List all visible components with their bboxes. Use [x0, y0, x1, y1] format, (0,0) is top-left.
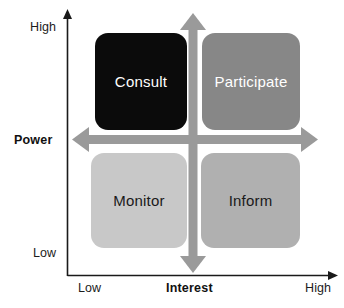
double-arrow-horizontal-icon — [72, 127, 318, 152]
y-axis-title: Power — [14, 133, 53, 147]
arrow-up-icon — [63, 9, 72, 19]
quadrant-consult[interactable]: Consult — [95, 33, 187, 130]
x-axis-title: Interest — [166, 281, 213, 295]
quadrant-participate[interactable]: Participate — [202, 33, 300, 130]
quadrant-inform[interactable]: Inform — [201, 153, 300, 248]
quadrant-inform-label: Inform — [229, 193, 273, 208]
y-axis-low-tick-label: Low — [33, 246, 56, 260]
quadrant-monitor-label: Monitor — [113, 193, 164, 208]
quadrant-participate-label: Participate — [214, 74, 287, 89]
x-axis-high-tick-label: High — [305, 281, 331, 295]
x-axis-low-tick-label: Low — [78, 281, 101, 295]
arrow-right-icon — [328, 271, 338, 280]
quadrant-consult-label: Consult — [115, 74, 167, 89]
power-interest-matrix-figure: Consult Participate Monitor Inform High … — [0, 0, 344, 308]
y-axis-high-tick-label: High — [30, 20, 56, 34]
quadrant-monitor[interactable]: Monitor — [91, 153, 187, 248]
